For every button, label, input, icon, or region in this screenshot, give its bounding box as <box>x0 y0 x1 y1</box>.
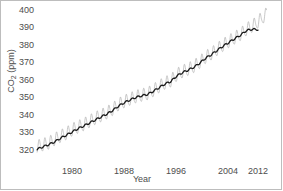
ytick-390: 390 <box>8 22 34 32</box>
ytick-400: 400 <box>8 5 34 15</box>
y-axis-label-main: CO <box>6 79 16 93</box>
y-axis-label-unit: (ppm) <box>6 49 16 75</box>
x-axis-label: Year <box>118 174 166 184</box>
ytick-330: 330 <box>8 127 34 137</box>
xtick-2012: 2012 <box>238 166 278 176</box>
y-axis-label-subscript: 2 <box>10 75 17 79</box>
co2-chart-figure: 400 390 380 370 360 350 340 330 320 1980… <box>0 0 283 191</box>
ytick-340: 340 <box>8 110 34 120</box>
plot-canvas <box>0 0 283 191</box>
ytick-320: 320 <box>8 145 34 155</box>
y-axis-label: CO2 (ppm) <box>6 35 16 107</box>
xtick-1980: 1980 <box>52 166 92 176</box>
